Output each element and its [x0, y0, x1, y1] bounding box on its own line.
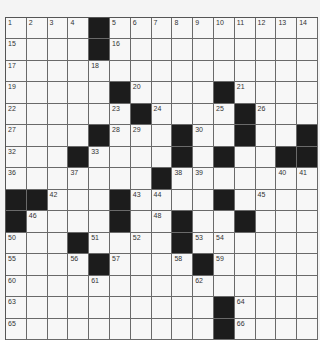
grid-cell[interactable] [89, 82, 110, 103]
grid-cell[interactable] [68, 190, 89, 211]
grid-cell[interactable]: 11 [235, 18, 256, 39]
grid-cell[interactable] [89, 190, 110, 211]
grid-cell[interactable] [131, 276, 152, 297]
grid-cell[interactable]: 23 [110, 104, 131, 125]
grid-cell[interactable] [131, 39, 152, 60]
grid-cell[interactable]: 62 [193, 276, 214, 297]
grid-cell[interactable] [172, 297, 193, 318]
grid-cell[interactable]: 24 [152, 104, 173, 125]
grid-cell[interactable] [27, 319, 48, 340]
grid-cell[interactable] [68, 211, 89, 232]
grid-cell[interactable] [68, 39, 89, 60]
grid-cell[interactable] [256, 211, 277, 232]
grid-cell[interactable] [27, 61, 48, 82]
grid-cell[interactable] [256, 276, 277, 297]
grid-cell[interactable]: 36 [6, 168, 27, 189]
grid-cell[interactable] [172, 276, 193, 297]
grid-cell[interactable] [27, 297, 48, 318]
grid-cell[interactable] [68, 104, 89, 125]
grid-cell[interactable] [193, 61, 214, 82]
grid-cell[interactable] [235, 190, 256, 211]
grid-cell[interactable] [256, 233, 277, 254]
grid-cell[interactable] [172, 104, 193, 125]
grid-cell[interactable] [193, 82, 214, 103]
grid-cell[interactable] [172, 190, 193, 211]
grid-cell[interactable] [152, 276, 173, 297]
grid-cell[interactable]: 60 [6, 276, 27, 297]
grid-cell[interactable]: 38 [172, 168, 193, 189]
grid-cell[interactable]: 39 [193, 168, 214, 189]
grid-cell[interactable] [235, 39, 256, 60]
grid-cell[interactable] [152, 147, 173, 168]
grid-cell[interactable]: 58 [172, 254, 193, 275]
grid-cell[interactable] [152, 233, 173, 254]
grid-cell[interactable]: 64 [235, 297, 256, 318]
grid-cell[interactable] [172, 39, 193, 60]
grid-cell[interactable]: 27 [6, 125, 27, 146]
grid-cell[interactable] [193, 147, 214, 168]
grid-cell[interactable] [131, 297, 152, 318]
grid-cell[interactable] [27, 276, 48, 297]
grid-cell[interactable] [172, 61, 193, 82]
grid-cell[interactable] [256, 125, 277, 146]
grid-cell[interactable]: 51 [89, 233, 110, 254]
grid-cell[interactable] [214, 39, 235, 60]
grid-cell[interactable] [68, 125, 89, 146]
grid-cell[interactable] [235, 254, 256, 275]
grid-cell[interactable]: 3 [48, 18, 69, 39]
grid-cell[interactable] [276, 104, 297, 125]
grid-cell[interactable] [297, 39, 318, 60]
grid-cell[interactable] [48, 168, 69, 189]
grid-cell[interactable] [152, 39, 173, 60]
grid-cell[interactable] [48, 104, 69, 125]
grid-cell[interactable]: 41 [297, 168, 318, 189]
grid-cell[interactable]: 13 [276, 18, 297, 39]
grid-cell[interactable] [68, 276, 89, 297]
grid-cell[interactable]: 20 [131, 82, 152, 103]
grid-cell[interactable]: 12 [256, 18, 277, 39]
grid-cell[interactable]: 25 [214, 104, 235, 125]
grid-cell[interactable] [48, 125, 69, 146]
grid-cell[interactable] [27, 39, 48, 60]
grid-cell[interactable]: 21 [235, 82, 256, 103]
grid-cell[interactable] [48, 254, 69, 275]
grid-cell[interactable] [48, 319, 69, 340]
grid-cell[interactable] [276, 276, 297, 297]
grid-cell[interactable] [131, 211, 152, 232]
grid-cell[interactable]: 48 [152, 211, 173, 232]
grid-cell[interactable] [152, 125, 173, 146]
grid-cell[interactable]: 5 [110, 18, 131, 39]
grid-cell[interactable]: 32 [6, 147, 27, 168]
grid-cell[interactable]: 33 [89, 147, 110, 168]
grid-cell[interactable] [68, 297, 89, 318]
grid-cell[interactable]: 56 [68, 254, 89, 275]
grid-cell[interactable] [89, 104, 110, 125]
grid-cell[interactable] [48, 276, 69, 297]
grid-cell[interactable] [297, 61, 318, 82]
grid-cell[interactable] [110, 168, 131, 189]
grid-cell[interactable] [256, 61, 277, 82]
grid-cell[interactable] [276, 125, 297, 146]
grid-cell[interactable] [297, 254, 318, 275]
grid-cell[interactable] [256, 319, 277, 340]
grid-cell[interactable]: 63 [6, 297, 27, 318]
grid-cell[interactable] [89, 297, 110, 318]
grid-cell[interactable] [110, 147, 131, 168]
grid-cell[interactable] [89, 168, 110, 189]
grid-cell[interactable]: 50 [6, 233, 27, 254]
grid-cell[interactable] [110, 276, 131, 297]
grid-cell[interactable] [48, 147, 69, 168]
grid-cell[interactable] [48, 211, 69, 232]
grid-cell[interactable]: 45 [256, 190, 277, 211]
grid-cell[interactable]: 42 [48, 190, 69, 211]
grid-cell[interactable] [235, 61, 256, 82]
grid-cell[interactable] [276, 61, 297, 82]
grid-cell[interactable] [276, 297, 297, 318]
grid-cell[interactable] [110, 233, 131, 254]
grid-cell[interactable]: 6 [131, 18, 152, 39]
grid-cell[interactable] [297, 190, 318, 211]
grid-cell[interactable]: 59 [214, 254, 235, 275]
grid-cell[interactable] [152, 297, 173, 318]
grid-cell[interactable] [193, 319, 214, 340]
grid-cell[interactable] [89, 211, 110, 232]
